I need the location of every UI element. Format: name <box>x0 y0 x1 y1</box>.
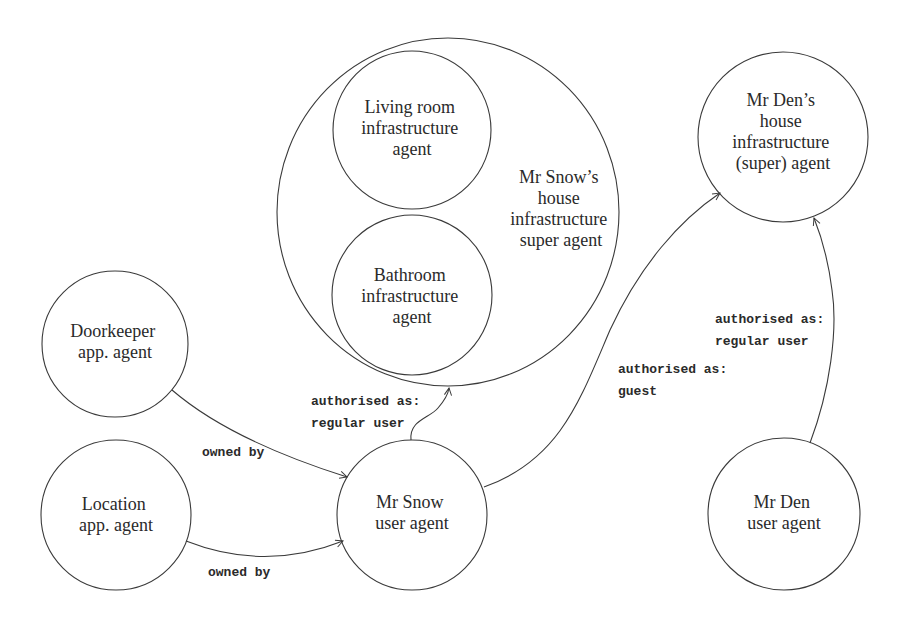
bathroom-agent-node: Bathroom infrastructure agent <box>332 215 492 375</box>
edge-label-line: authorised as: <box>618 362 727 377</box>
doorkeeper-app-agent-node: Doorkeeper app. agent <box>42 271 188 417</box>
den-house-label-line: Mr Den’s <box>747 90 816 110</box>
location-label-line: app. agent <box>79 515 153 535</box>
den-user-label-line: user agent <box>747 513 820 533</box>
edge-label-line: authorised as: <box>715 312 824 327</box>
edge-label-line: authorised as: <box>311 394 420 409</box>
owned-by-label: owned by <box>208 565 271 580</box>
bathroom-label-line: Bathroom <box>374 265 446 285</box>
living-room-agent-node: Living room infrastructure agent <box>333 51 491 209</box>
owned-by-arrow <box>186 541 343 557</box>
doorkeeper-label: Doorkeeper app. agent <box>70 321 159 362</box>
edge-label-line: guest <box>618 384 657 399</box>
snow-house-label-line: Mr Snow’s <box>519 167 599 187</box>
authorised-arrow <box>810 218 834 443</box>
living-room-label-line: infrastructure <box>361 118 458 138</box>
snow-user-agent-node: Mr Snow user agent <box>337 440 487 590</box>
living-room-label-line: agent <box>393 139 432 159</box>
snow-house-label: Mr Snow’s house infrastructure super age… <box>510 167 611 250</box>
location-app-agent-node: Location app. agent <box>41 440 191 590</box>
snow-house-label-line: house <box>538 188 580 208</box>
agent-diagram: Mr Snow’s house infrastructure super age… <box>0 0 905 619</box>
authorised-regular-user-label: authorised as: regular user <box>715 312 832 349</box>
owned-by-label: owned by <box>202 445 265 460</box>
location-label: Location app. agent <box>79 494 153 535</box>
edge-label-line: regular user <box>311 416 405 431</box>
location-label-line: Location <box>82 494 146 514</box>
authorised-regular-user-label: authorised as: regular user <box>311 394 428 431</box>
edge-snow-user-to-snow-house: authorised as: regular user <box>311 388 449 440</box>
snow-house-label-line: super agent <box>520 230 602 250</box>
bathroom-label-line: agent <box>393 307 432 327</box>
living-room-label-line: Living room <box>365 97 456 117</box>
edge-den-user-to-den-house: authorised as: regular user <box>715 218 834 443</box>
edge-label-line: regular user <box>715 334 809 349</box>
den-house-agent-node: Mr Den’s house infrastructure (super) ag… <box>698 52 868 222</box>
den-user-agent-node: Mr Den user agent <box>708 438 860 590</box>
doorkeeper-label-line: Doorkeeper <box>70 321 155 341</box>
den-user-label-line: Mr Den <box>754 492 811 512</box>
bathroom-label-line: infrastructure <box>361 286 458 306</box>
den-house-label-line: (super) agent <box>736 153 830 174</box>
authorised-guest-label: authorised as: guest <box>618 362 735 399</box>
doorkeeper-label-line: app. agent <box>78 342 152 362</box>
snow-user-label: Mr Snow user agent <box>375 492 448 533</box>
den-house-label-line: house <box>760 111 802 131</box>
snow-house-label-line: infrastructure <box>510 209 607 229</box>
den-house-label-line: infrastructure <box>732 132 829 152</box>
edge-location-to-snow-user: owned by <box>186 541 343 580</box>
den-house-label: Mr Den’s house infrastructure (super) ag… <box>732 90 833 174</box>
snow-user-label-line: user agent <box>375 513 448 533</box>
snow-user-label-line: Mr Snow <box>376 492 444 512</box>
den-user-label: Mr Den user agent <box>747 492 820 533</box>
